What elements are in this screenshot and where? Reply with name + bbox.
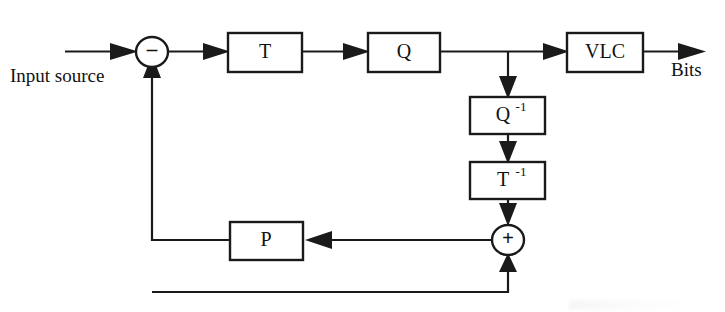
block-vlc[interactable]: VLC bbox=[567, 33, 643, 72]
block-inverse-transform[interactable]: T -1 bbox=[470, 162, 545, 199]
block-quantizer-label: Q bbox=[397, 40, 412, 62]
node-adder-sign: + bbox=[502, 226, 514, 250]
block-quantizer[interactable]: Q bbox=[368, 33, 440, 72]
block-inverse-transform-label: T bbox=[497, 168, 509, 190]
block-transform[interactable]: T bbox=[228, 33, 302, 72]
wire-predictor-to-subtractor bbox=[152, 75, 230, 240]
block-inverse-quantizer-superscript: -1 bbox=[516, 99, 527, 114]
arrowhead-inverse-transform-to-adder bbox=[499, 203, 517, 226]
block-inverse-quantizer-label: Q bbox=[496, 103, 511, 125]
node-subtractor[interactable]: – bbox=[136, 37, 168, 67]
arrowhead-input-to-subtractor bbox=[110, 43, 138, 60]
block-vlc-label: VLC bbox=[585, 40, 625, 62]
block-diagram-canvas: T Q VLC Q -1 T -1 bbox=[0, 0, 725, 312]
arrowhead-transform-to-quantizer bbox=[343, 43, 370, 60]
wire-layer bbox=[65, 43, 706, 292]
node-layer: – + bbox=[136, 37, 524, 255]
bits-label: Bits bbox=[671, 59, 702, 80]
block-diagram-svg: T Q VLC Q -1 T -1 bbox=[0, 0, 725, 312]
arrowhead-adder-to-predictor bbox=[305, 231, 332, 249]
arrowhead-subtractor-to-transform bbox=[203, 43, 230, 60]
wire-prediction-branch-to-adder bbox=[152, 270, 508, 292]
block-layer: T Q VLC Q -1 T -1 bbox=[228, 33, 643, 260]
block-predictor[interactable]: P bbox=[230, 222, 303, 260]
node-subtractor-sign: – bbox=[146, 37, 158, 61]
block-predictor-label: P bbox=[260, 228, 271, 250]
input-source-label: Input source bbox=[10, 65, 104, 86]
block-inverse-quantizer[interactable]: Q -1 bbox=[470, 97, 545, 134]
block-transform-label: T bbox=[259, 40, 271, 62]
arrowhead-tap-to-inverse-quantizer bbox=[499, 76, 517, 99]
node-adder[interactable]: + bbox=[492, 225, 524, 255]
arrowhead-vlc-to-bits bbox=[678, 43, 706, 60]
block-inverse-transform-superscript: -1 bbox=[516, 164, 527, 179]
arrowhead-inverse-quantizer-to-inverse-transform bbox=[499, 141, 517, 164]
arrowhead-quantizer-to-vlc bbox=[543, 43, 569, 60]
